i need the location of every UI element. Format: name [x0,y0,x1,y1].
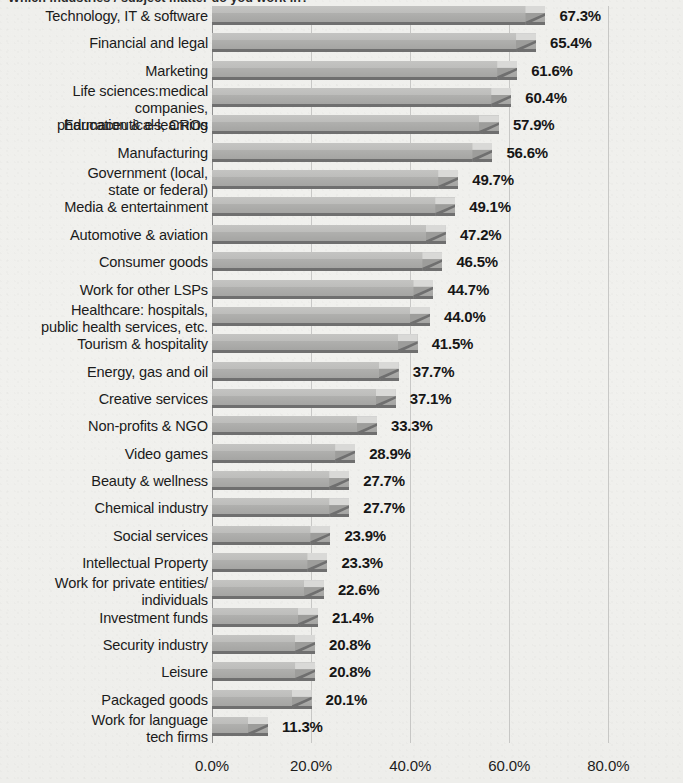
bar [212,662,315,684]
category-label: Security industry [103,637,208,654]
bar-top-face [212,280,433,287]
chart-row: Media & entertainment49.1% [0,197,683,219]
chart-row: Work for private entities/ individuals22… [0,580,683,602]
bar-end-cap [491,88,511,107]
bar-end-cap [248,717,268,736]
bar-cap-top [248,717,268,724]
category-label: Beauty & wellness [91,473,208,490]
bar-top-face [212,88,511,95]
bar-value-label: 20.1% [326,691,368,708]
bar-base-shadow [212,186,458,189]
bar-value-label: 37.7% [413,363,455,380]
chart-row: Chemical industry27.7% [0,498,683,520]
bar-value-label: 20.8% [329,663,371,680]
bar-value-label: 20.8% [329,636,371,653]
bar-front-face [212,423,377,432]
bar-base-shadow [212,460,355,463]
chart-row: Investment funds21.4% [0,608,683,630]
bar-front-face [212,451,355,460]
bar [212,416,377,438]
bar-front-face [212,314,430,323]
category-label: Creative services [99,391,208,408]
category-label: Marketing [145,63,208,80]
chart-row: Social services23.9% [0,526,683,548]
chart-row: Government (local, state or federal)49.7… [0,170,683,192]
bar [212,553,327,575]
bar-value-label: 67.3% [559,7,601,24]
chart-row: Video games28.9% [0,444,683,466]
chart-row: Security industry20.8% [0,635,683,657]
bar-front-face [212,95,511,104]
bar-end-cap [295,635,315,654]
bar-base-shadow [212,131,499,134]
bar-end-cap [497,61,517,80]
bar-top-face [212,307,430,314]
bar [212,6,545,28]
bar-cap-top [472,143,492,150]
category-label: Chemical industry [95,500,208,517]
bar-base-shadow [212,22,545,25]
x-axis-tick-label: 0.0% [195,757,229,774]
category-label: Education & e-learning [64,117,208,134]
bar-base-shadow [212,159,492,162]
bar-cap-top [329,471,349,478]
category-label: Intellectual Property [82,555,208,572]
bar-end-cap [295,662,315,681]
bar-end-cap [376,389,396,408]
chart-row: Non-profits & NGO33.3% [0,416,683,438]
bar-base-shadow [212,77,517,80]
bar-value-label: 56.6% [506,144,548,161]
bar [212,33,536,55]
bar-top-face [212,33,536,40]
chart-row: Marketing61.6% [0,61,683,83]
bar-value-label: 28.9% [369,445,411,462]
category-label: Packaged goods [101,692,208,709]
bar [212,362,399,384]
bar-end-cap [413,280,433,299]
bar-end-cap [379,362,399,381]
bar [212,608,318,630]
bar [212,498,349,520]
bar-end-cap [292,690,312,709]
category-label: Consumer goods [99,254,208,271]
bar-front-face [212,13,545,22]
bar-value-label: 49.1% [469,198,511,215]
category-label: Manufacturing [117,145,208,162]
bar-front-face [212,40,536,49]
bar-end-cap [304,580,324,599]
bar [212,115,499,137]
bar-top-face [212,197,455,204]
x-axis-tick-label: 60.0% [488,757,530,774]
bar-cap-top [295,635,315,642]
bar-value-label: 49.7% [472,171,514,188]
bar-top-face [212,115,499,122]
plot-area: 0.0%20.0%40.0%60.0%80.0%Technology, IT &… [0,0,683,783]
bar-end-cap [516,33,536,52]
bar-value-label: 60.4% [525,89,567,106]
category-label: Media & entertainment [64,199,208,216]
bar-end-cap [398,334,418,353]
chart-row: Automotive & aviation47.2% [0,225,683,247]
bar-value-label: 44.0% [444,308,486,325]
bar-end-cap [410,307,430,326]
bar-value-label: 41.5% [432,335,474,352]
bar-end-cap [438,170,458,189]
bar-front-face [212,232,446,241]
category-label: Automotive & aviation [70,227,208,244]
bar-cap-top [310,526,330,533]
bar-value-label: 37.1% [410,390,452,407]
bar-cap-top [438,170,458,177]
bar-cap-top [298,608,318,615]
category-label: Work for private entities/ individuals [55,575,208,609]
bar-cap-top [422,252,442,259]
category-label: Work for language tech firms [92,712,208,746]
bar-base-shadow [212,323,430,326]
bar-end-cap [307,553,327,572]
bar-cap-top [295,662,315,669]
bar-value-label: 44.7% [447,281,489,298]
bar-end-cap [435,197,455,216]
chart-row: Financial and legal65.4% [0,33,683,55]
bar-front-face [212,68,517,77]
chart-row: Beauty & wellness27.7% [0,471,683,493]
bar-front-face [212,150,492,159]
